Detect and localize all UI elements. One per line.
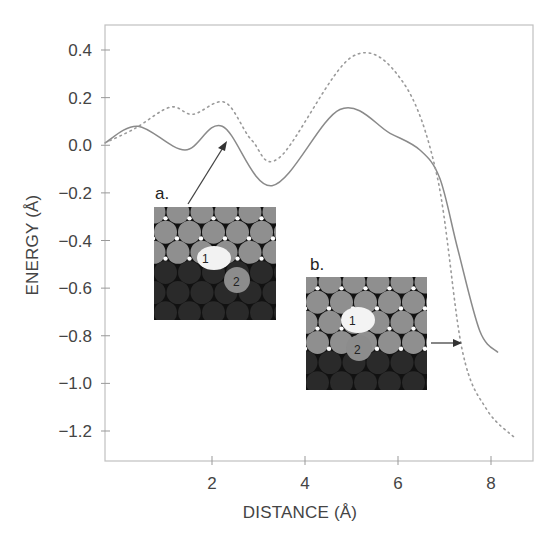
atom	[250, 301, 273, 324]
atom-gap	[199, 236, 203, 240]
atom	[287, 241, 310, 264]
atom	[319, 311, 342, 334]
y-tick-label: −0.6	[58, 279, 92, 298]
atom-gap	[175, 196, 179, 200]
atom	[439, 391, 462, 414]
atom-gap	[447, 306, 451, 310]
atom-gap	[211, 216, 215, 220]
atom	[402, 250, 425, 273]
atom	[154, 261, 177, 284]
atom-gap	[339, 286, 343, 290]
y-axis-ticks: 0.40.20.0−0.2−0.4−0.6−0.8−1.0−1.2	[58, 41, 110, 441]
atom	[191, 321, 214, 344]
y-tick-label: −0.2	[58, 184, 92, 203]
atom	[250, 261, 273, 284]
atom	[474, 250, 497, 273]
atom	[391, 311, 414, 334]
atom-gap	[279, 306, 283, 310]
atom	[271, 351, 294, 374]
atom	[95, 241, 118, 264]
atom-gap	[247, 236, 251, 240]
atom-gap	[387, 286, 391, 290]
atom-gap	[291, 286, 295, 290]
atom	[474, 291, 497, 314]
atom	[391, 271, 414, 294]
atom	[343, 391, 366, 414]
atom	[263, 281, 286, 304]
atom	[202, 221, 225, 244]
atom	[143, 321, 166, 344]
atom-gap	[295, 196, 299, 200]
atom	[426, 250, 449, 273]
atom	[263, 201, 286, 224]
atom-gap	[295, 236, 299, 240]
atom	[258, 331, 281, 354]
atom	[378, 371, 401, 394]
atom	[474, 371, 497, 394]
atom	[343, 271, 366, 294]
atom	[167, 241, 190, 264]
y-tick-label: −1.2	[58, 422, 92, 441]
atom	[322, 180, 345, 203]
atom-gap	[483, 286, 487, 290]
arrow-head-icon	[453, 339, 462, 347]
atom	[178, 180, 201, 203]
atom	[119, 321, 142, 344]
atom-gap	[187, 216, 191, 220]
inset-b: b. 1 2	[247, 250, 500, 414]
atom-gap	[375, 266, 379, 270]
atom-gap	[319, 196, 323, 200]
atom-gap	[127, 236, 131, 240]
atom-gap	[235, 216, 239, 220]
atom	[106, 261, 129, 284]
atom	[178, 261, 201, 284]
energy-distance-chart: 0.40.20.0−0.2−0.4−0.6−0.8−1.0−1.2 2468 D…	[0, 0, 560, 543]
atom	[239, 201, 262, 224]
atom-gap	[411, 326, 415, 330]
atom	[191, 201, 214, 224]
atom-gap	[327, 266, 331, 270]
atom	[202, 180, 225, 203]
atom-gap	[307, 216, 311, 220]
atom	[306, 371, 329, 394]
atom	[215, 321, 238, 344]
atom	[274, 221, 297, 244]
atom-gap	[339, 326, 343, 330]
atom-gap	[127, 196, 131, 200]
atom	[306, 291, 329, 314]
atom-gap	[315, 326, 319, 330]
atom	[282, 371, 305, 394]
atom	[263, 321, 286, 344]
atom-gap	[115, 216, 119, 220]
atom-gap	[279, 266, 283, 270]
atom	[282, 250, 305, 273]
atom-gap	[319, 236, 323, 240]
x-tick-label: 6	[393, 474, 402, 493]
atom	[367, 391, 390, 414]
atom	[95, 321, 118, 344]
atom	[119, 281, 142, 304]
inset-b-label: b.	[310, 255, 324, 274]
atom	[439, 351, 462, 374]
atom-gap	[495, 266, 499, 270]
atom-gap	[363, 286, 367, 290]
atom-gap	[271, 236, 275, 240]
atom-2-number: 2	[354, 343, 361, 357]
atom-gap	[343, 236, 347, 240]
y-tick-label: −0.8	[58, 327, 92, 346]
atom	[226, 221, 249, 244]
atom	[295, 351, 318, 374]
atom	[95, 281, 118, 304]
atom	[311, 201, 334, 224]
y-tick-label: 0.2	[68, 89, 92, 108]
atom-gap	[375, 347, 379, 351]
atom	[282, 331, 305, 354]
atom	[415, 351, 438, 374]
x-tick-label: 2	[207, 474, 216, 493]
atom	[271, 391, 294, 414]
atom-1-number: 1	[349, 314, 356, 328]
atom-gap	[259, 216, 263, 220]
atom-gap	[235, 256, 239, 260]
atom	[130, 261, 153, 284]
atom	[298, 180, 321, 203]
